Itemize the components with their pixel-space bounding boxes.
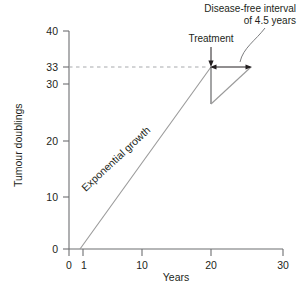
y-tick-label-33: 33 xyxy=(32,62,58,73)
x-tick-label-20: 20 xyxy=(205,260,217,271)
x-tick-label-10: 10 xyxy=(136,260,148,271)
exponential-growth-line xyxy=(80,67,211,249)
y-axis-ticks xyxy=(63,31,69,249)
x-axis-title: Years xyxy=(163,272,189,283)
y-tick-label-40: 40 xyxy=(32,26,58,37)
x-tick-label-1: 1 xyxy=(81,260,87,271)
disease-free-interval-annotation: Disease-free interval of 4.5 years xyxy=(204,3,296,26)
chart-figure: 40 33 30 20 10 0 0 1 10 20 30 Tumour dou… xyxy=(0,0,300,291)
dfi-line-1: Disease-free interval xyxy=(204,3,296,15)
annotation-leader-line xyxy=(240,28,265,62)
x-tick-label-0: 0 xyxy=(66,260,72,271)
y-tick-label-10: 10 xyxy=(32,192,58,203)
x-axis-ticks xyxy=(69,249,283,256)
x-tick-label-30: 30 xyxy=(277,260,289,271)
y-tick-label-20: 20 xyxy=(32,136,58,147)
regrowth-line xyxy=(211,67,251,104)
treatment-annotation: Treatment xyxy=(188,33,233,45)
y-tick-label-0: 0 xyxy=(32,244,58,255)
y-tick-label-30: 30 xyxy=(32,79,58,90)
y-axis-title: Tumour doublings xyxy=(13,95,24,195)
dfi-line-2: of 4.5 years xyxy=(204,15,296,27)
